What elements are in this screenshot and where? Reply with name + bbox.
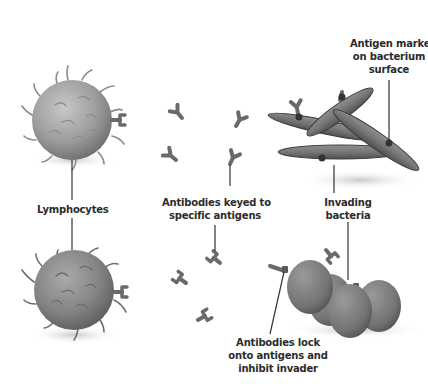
label-antibodies-lock: Antibodies lock onto antigens and inhibi… <box>228 336 328 375</box>
lymphocyte-bottom <box>22 248 127 344</box>
lymphocyte-top <box>22 66 125 170</box>
label-lymphocytes-text: Lymphocytes <box>37 204 109 215</box>
label-invading-bacteria: Invading bacteria <box>318 196 378 222</box>
label-invading-line1: Invading <box>318 196 378 209</box>
label-antigen-marker-line2: on bacterium <box>350 50 428 63</box>
label-antibodies-keyed: Antibodies keyed to specific antigens <box>162 196 268 222</box>
label-antigen-marker-line3: surface <box>350 63 428 76</box>
label-antigen-marker: Antigen marker on bacterium surface <box>350 37 428 76</box>
label-lock-line1: Antibodies lock <box>228 336 328 349</box>
rod-bacteria <box>267 83 423 190</box>
label-lock-line3: inhibit invader <box>228 362 328 375</box>
label-antibodies-keyed-line1: Antibodies keyed to <box>162 196 268 209</box>
label-antibodies-keyed-line2: specific antigens <box>162 209 268 222</box>
label-antigen-marker-line1: Antigen marker <box>350 37 428 50</box>
label-lymphocytes: Lymphocytes <box>37 203 109 216</box>
label-lock-line2: onto antigens and <box>228 349 328 362</box>
antibodies-free-top <box>163 105 247 166</box>
label-invading-line2: bacteria <box>318 209 378 222</box>
